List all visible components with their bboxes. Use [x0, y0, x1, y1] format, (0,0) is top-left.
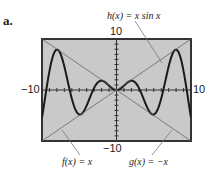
plot: [0, 0, 216, 179]
